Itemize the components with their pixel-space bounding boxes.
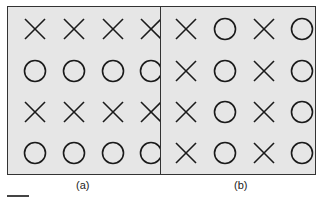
circle-icon [25, 61, 46, 82]
circle-icon [292, 61, 313, 82]
cross-icon [141, 19, 161, 39]
panel-a [7, 6, 162, 175]
cross-icon [25, 102, 45, 122]
cross-icon [254, 143, 274, 163]
cross-icon [103, 102, 123, 122]
caption-a: (a) [76, 179, 89, 191]
cross-icon [254, 61, 274, 81]
cross-icon [103, 19, 123, 39]
circle-icon [141, 61, 162, 82]
panel-b [160, 6, 316, 175]
cross-icon [64, 19, 84, 39]
circle-icon [103, 61, 124, 82]
circle-icon [64, 61, 85, 82]
cross-icon [254, 19, 274, 39]
cross-icon [176, 61, 196, 81]
caption-b: (b) [234, 179, 247, 191]
circle-icon [292, 19, 313, 40]
circle-icon [215, 143, 236, 164]
cross-icon [64, 102, 84, 122]
circle-icon [64, 143, 85, 164]
circle-icon [103, 143, 124, 164]
cross-icon [176, 102, 196, 122]
cross-icon [176, 19, 196, 39]
circle-icon [215, 61, 236, 82]
cross-icon [254, 102, 274, 122]
circle-icon [25, 143, 46, 164]
symbol-grid-b [161, 7, 315, 174]
cross-icon [25, 19, 45, 39]
circle-icon [141, 143, 162, 164]
symbol-grid-a [8, 7, 161, 174]
cross-icon [141, 102, 161, 122]
circle-icon [292, 102, 313, 123]
circle-icon [215, 19, 236, 40]
cross-icon [176, 143, 196, 163]
circle-icon [215, 102, 236, 123]
underline-mark [7, 195, 29, 197]
circle-icon [292, 143, 313, 164]
